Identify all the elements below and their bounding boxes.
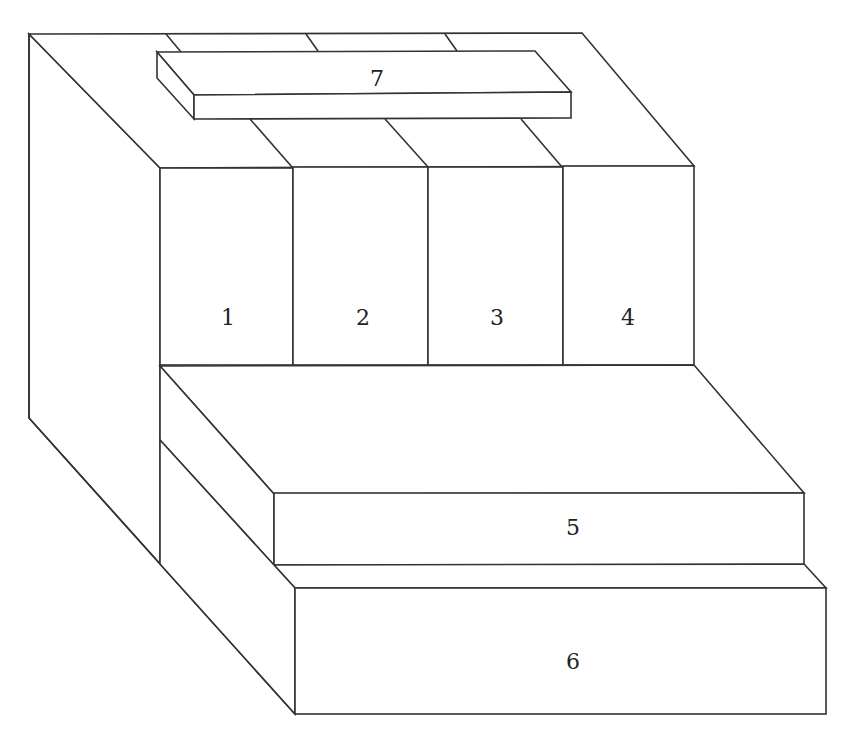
block-1-front [160,168,293,365]
block-7-top [157,51,571,95]
block-5 [160,365,804,565]
block-3-label: 3 [490,307,504,329]
block-7-label: 7 [370,68,384,90]
block-4-front [563,166,694,365]
block-2-front [293,167,428,365]
block-4-label: 4 [621,307,635,329]
block-3-front [428,167,563,365]
block-6-top [274,564,826,588]
block-1-label: 1 [221,307,235,329]
block-diagram [0,0,854,742]
block-6-label: 6 [566,651,580,673]
block-7 [157,51,571,119]
block-5-label: 5 [566,517,580,539]
block-2-label: 2 [356,307,370,329]
block-5-front [274,493,804,565]
blocks-1-4 [160,166,694,365]
block-6-front [295,588,826,714]
block-7-front [194,92,571,119]
